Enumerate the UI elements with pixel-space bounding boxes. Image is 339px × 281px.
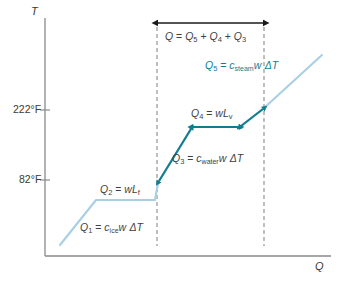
annotation-q1: Q1 = cicew ΔT: [80, 222, 143, 233]
q5-coef-sub: steam: [235, 65, 254, 72]
q2-equals: =: [115, 183, 121, 195]
annotation-q5: Q5 = csteamw ΔT: [205, 60, 278, 71]
annotation-q4: Q4 = wLv: [191, 108, 233, 119]
q5-arrow: [241, 109, 263, 126]
q2-latent: L: [132, 183, 138, 195]
q4-latent-sub: v: [229, 112, 233, 121]
phase-change-diagram: T Q 222°F 82°F Q = Q5 + Q4 + Q3 Q5 = cst…: [0, 0, 339, 281]
q5-coef: c: [229, 59, 234, 71]
q5-lhs-sub: 5: [213, 64, 217, 73]
bracket-plus1: +: [200, 30, 206, 42]
bracket-equation: Q = Q5 + Q4 + Q3: [165, 31, 246, 42]
q4-latent: L: [223, 107, 229, 119]
q3-equals: =: [187, 152, 193, 164]
q1-equals: =: [95, 221, 101, 233]
q4-lhs: Q: [191, 107, 199, 119]
bracket-term2: Q: [209, 30, 217, 42]
q3-lhs: Q: [172, 152, 180, 164]
q1-lhs-sub: 1: [88, 226, 92, 235]
q4-equals: =: [206, 107, 212, 119]
q1-coef: c: [104, 221, 109, 233]
bracket-term3-sub: 3: [242, 35, 246, 44]
q4-coef: w: [215, 107, 223, 119]
q3-lhs-sub: 3: [180, 157, 184, 166]
q3-mass: w: [219, 152, 227, 164]
y-tick-label-82f: 82°F: [19, 174, 41, 185]
bracket-equals: =: [176, 30, 182, 42]
q1-lhs: Q: [80, 221, 88, 233]
bracket-term2-sub: 4: [218, 35, 222, 44]
bracket-plus2: +: [225, 30, 231, 42]
bracket-term1-sub: 5: [193, 35, 197, 44]
q2-lhs: Q: [100, 183, 108, 195]
heating-curve: [60, 55, 322, 245]
q2-latent-sub: f: [138, 188, 140, 197]
q5-delta: ΔT: [265, 59, 278, 71]
q3-coef: c: [196, 152, 201, 164]
q3-coef-sub: water: [202, 158, 219, 165]
q2-lhs-sub: 2: [108, 188, 112, 197]
bracket-lhs: Q: [165, 30, 173, 42]
q5-mass: w: [254, 59, 262, 71]
q1-coef-sub: ice: [110, 227, 119, 234]
y-axis-label: T: [31, 6, 38, 17]
q3-delta: ΔT: [230, 152, 243, 164]
dashed-guides: [157, 20, 264, 246]
bracket-term3: Q: [234, 30, 242, 42]
q4-lhs-sub: 4: [199, 112, 203, 121]
plot-canvas: [0, 0, 339, 281]
q1-mass: w: [119, 221, 127, 233]
y-tick-label-222f: 222°F: [13, 104, 41, 115]
q5-equals: =: [220, 59, 226, 71]
q5-lhs: Q: [205, 59, 213, 71]
annotation-q3: Q3 = cwaterw ΔT: [172, 153, 243, 164]
annotation-q2: Q2 = wLf: [100, 184, 140, 195]
q2-coef: w: [124, 183, 132, 195]
x-axis-label: Q: [315, 261, 324, 272]
q1-delta: ΔT: [130, 221, 143, 233]
